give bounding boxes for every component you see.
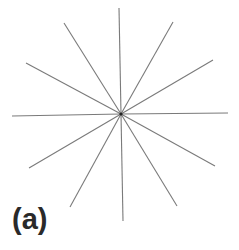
center-point <box>119 112 122 115</box>
panel-label: (a) <box>12 205 47 234</box>
star-figure: (a) <box>0 0 239 250</box>
ray-up-right-1 <box>121 22 173 114</box>
ray-left <box>12 114 121 116</box>
ray-up <box>119 8 121 114</box>
ray-down-left-1 <box>29 114 121 168</box>
ray-up-left-2 <box>26 63 121 114</box>
ray-down-left-2 <box>70 114 121 207</box>
ray-up-right-2 <box>121 60 213 114</box>
ray-down <box>121 114 123 221</box>
ray-up-left-1 <box>64 23 121 114</box>
ray-right <box>121 113 228 114</box>
ray-down-right-1 <box>121 114 215 166</box>
ray-down-right-2 <box>121 114 177 206</box>
